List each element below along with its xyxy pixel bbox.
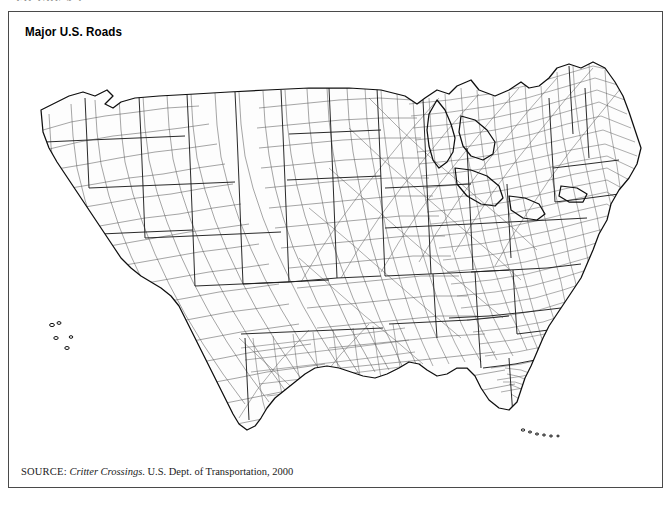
florida-keys [521, 429, 559, 437]
map-svg [9, 38, 662, 450]
figure-frame: Major U.S. Roads [8, 11, 663, 488]
source-label: SOURCE: [21, 466, 67, 477]
running-head: FIGURE A.1 [16, 0, 83, 7]
source-work-title: Critter Crossings [69, 466, 142, 477]
channel-islands [50, 322, 73, 350]
page-title: Major U.S. Roads [25, 25, 122, 39]
source-note: SOURCE: Critter Crossings. U.S. Dept. of… [21, 466, 293, 477]
source-rest: . U.S. Dept. of Transportation, 2000 [142, 466, 293, 477]
major-us-roads-map [9, 38, 662, 450]
